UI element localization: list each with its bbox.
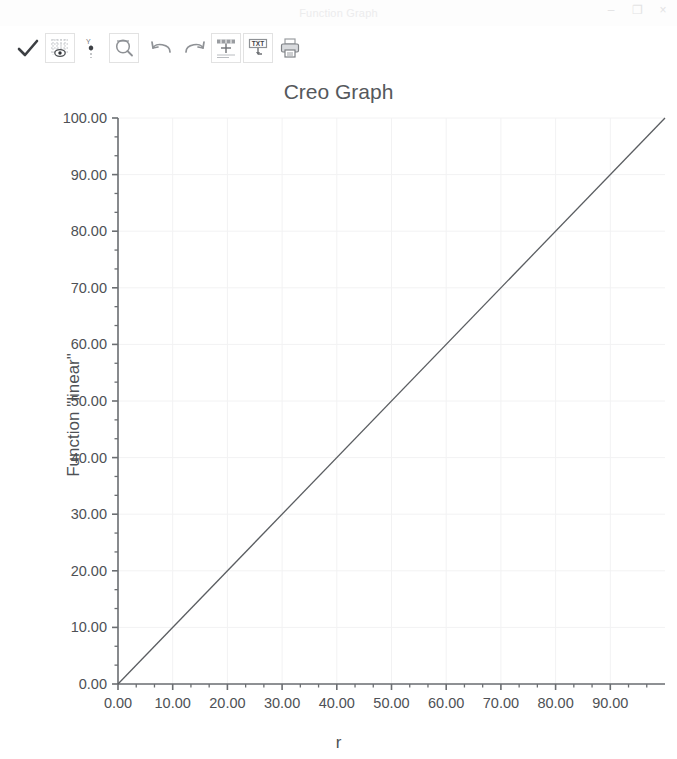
svg-text:20.00: 20.00	[71, 563, 107, 579]
redo-icon	[182, 39, 206, 57]
accept-button[interactable]	[13, 33, 43, 63]
svg-text:70.00: 70.00	[71, 280, 107, 296]
show-grid-button[interactable]	[45, 33, 75, 63]
svg-text:40.00: 40.00	[319, 695, 355, 711]
svg-text:TXT: TXT	[252, 40, 264, 47]
toolbar-separator	[141, 33, 145, 63]
graph-grid-icon	[49, 37, 71, 59]
show-table-button[interactable]	[211, 33, 241, 63]
minimize-icon[interactable]: –	[605, 3, 617, 17]
axis-tick-labels: 0.0010.0020.0030.0040.0050.0060.0070.008…	[63, 110, 629, 711]
svg-text:30.00: 30.00	[264, 695, 300, 711]
axis-ticks	[112, 118, 647, 690]
print-icon	[278, 37, 302, 59]
plot-area[interactable]: 0.0010.0020.0030.0040.0050.0060.0070.008…	[0, 70, 677, 759]
zoom-icon	[113, 37, 135, 59]
svg-text:Y: Y	[86, 38, 91, 45]
txt-export-icon: TXT	[247, 37, 269, 59]
svg-text:60.00: 60.00	[428, 695, 464, 711]
window-controls: – ❐ ×	[605, 3, 669, 17]
svg-text:0.00: 0.00	[104, 695, 132, 711]
axis-settings-button[interactable]: Y	[77, 33, 107, 63]
close-icon[interactable]: ×	[657, 3, 669, 17]
redo-button[interactable]	[179, 33, 209, 63]
print-button[interactable]	[275, 33, 305, 63]
svg-text:100.00: 100.00	[63, 110, 107, 126]
export-txt-button[interactable]: TXT	[243, 33, 273, 63]
window-title: Function Graph	[0, 7, 677, 19]
svg-text:90.00: 90.00	[592, 695, 628, 711]
toolbar: Y	[0, 26, 677, 70]
svg-text:60.00: 60.00	[71, 336, 107, 352]
svg-text:30.00: 30.00	[71, 506, 107, 522]
svg-text:80.00: 80.00	[537, 695, 573, 711]
svg-text:40.00: 40.00	[71, 450, 107, 466]
zoom-button[interactable]	[109, 33, 139, 63]
maximize-icon[interactable]: ❐	[631, 3, 643, 17]
svg-text:80.00: 80.00	[71, 223, 107, 239]
window-titlebar: Function Graph – ❐ ×	[0, 0, 677, 26]
svg-text:20.00: 20.00	[209, 695, 245, 711]
table-icon	[215, 37, 237, 59]
axis-scale-icon: Y	[82, 36, 102, 60]
svg-text:50.00: 50.00	[71, 393, 107, 409]
svg-text:10.00: 10.00	[155, 695, 191, 711]
undo-button[interactable]	[147, 33, 177, 63]
graph-panel[interactable]: Creo Graph Function "linear" r 0.0010.00…	[0, 70, 677, 759]
undo-icon	[150, 39, 174, 57]
svg-text:50.00: 50.00	[373, 695, 409, 711]
svg-text:90.00: 90.00	[71, 167, 107, 183]
svg-text:0.00: 0.00	[79, 676, 107, 692]
svg-text:10.00: 10.00	[71, 619, 107, 635]
check-icon	[17, 38, 39, 58]
svg-text:70.00: 70.00	[483, 695, 519, 711]
